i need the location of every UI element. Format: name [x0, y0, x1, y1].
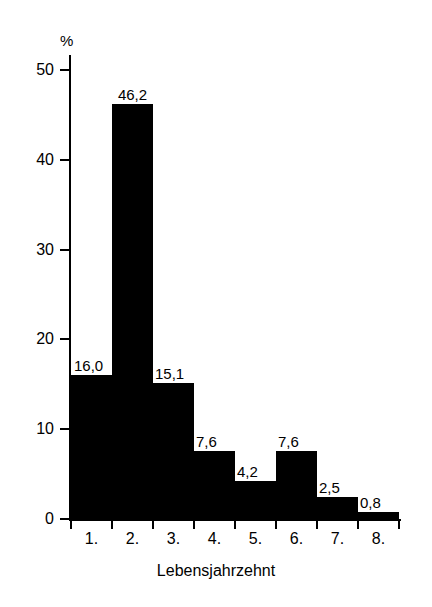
- x-axis-tick: [234, 519, 236, 529]
- x-axis-tick-label: 3.: [153, 531, 194, 547]
- x-axis-tick-label: 6.: [276, 531, 317, 547]
- bar: [112, 104, 153, 519]
- bar: [317, 497, 358, 519]
- y-axis-tick-label: 50: [14, 62, 54, 78]
- y-axis-tick-label: 0: [14, 511, 54, 527]
- y-axis-tick-label: 40: [14, 152, 54, 168]
- y-axis-tick-label: 30: [14, 242, 54, 258]
- y-axis-unit-label: %: [60, 33, 73, 48]
- x-axis-tick: [316, 519, 318, 529]
- y-axis-tick: [60, 249, 70, 251]
- y-axis-tick: [60, 518, 70, 520]
- x-axis-tick: [275, 519, 277, 529]
- bar-value-label: 46,2: [112, 87, 153, 102]
- bar: [358, 512, 399, 519]
- x-axis-tick: [193, 519, 195, 529]
- x-axis-tick: [70, 519, 72, 529]
- x-axis-tick: [111, 519, 113, 529]
- y-axis-tick-label: 20: [14, 331, 54, 347]
- y-axis-tick: [60, 69, 70, 71]
- bar-value-label: 2,5: [319, 480, 360, 495]
- chart-figure: % 01020304050 16,046,215,17,64,27,62,50,…: [0, 0, 432, 607]
- y-axis-tick: [60, 338, 70, 340]
- bar-value-label: 15,1: [155, 366, 196, 381]
- x-axis-tick: [152, 519, 154, 529]
- y-axis-tick: [60, 428, 70, 430]
- bar: [276, 451, 317, 519]
- y-axis-tick: [60, 159, 70, 161]
- x-axis-tick: [398, 519, 400, 529]
- plot-area: [71, 55, 399, 519]
- x-axis-tick-label: 7.: [317, 531, 358, 547]
- bar: [71, 375, 112, 519]
- bar: [235, 481, 276, 519]
- x-axis-tick-label: 5.: [235, 531, 276, 547]
- x-axis-tick-label: 2.: [112, 531, 153, 547]
- bar-value-label: 16,0: [74, 358, 115, 373]
- x-axis-tick-label: 8.: [358, 531, 399, 547]
- x-axis-tick-label: 4.: [194, 531, 235, 547]
- bar-value-label: 0,8: [360, 495, 401, 510]
- bar-value-label: 4,2: [237, 464, 278, 479]
- x-axis-tick: [357, 519, 359, 529]
- bar: [194, 451, 235, 519]
- bar-value-label: 7,6: [278, 434, 319, 449]
- bar-value-label: 7,6: [196, 434, 237, 449]
- bar: [153, 383, 194, 519]
- x-axis-tick-label: 1.: [71, 531, 112, 547]
- y-axis-tick-label: 10: [14, 421, 54, 437]
- x-axis-title: Lebensjahrzehnt: [0, 563, 432, 579]
